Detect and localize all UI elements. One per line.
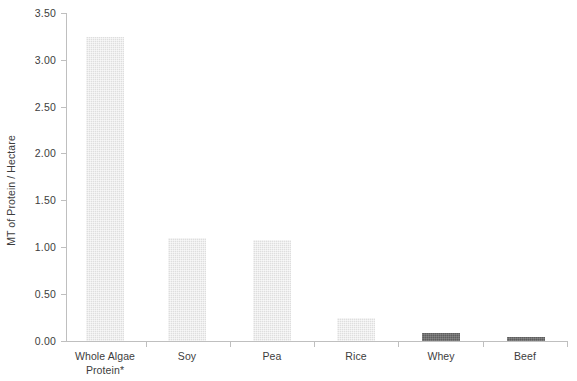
y-tick-label-1: 0.50: [0, 288, 56, 300]
y-tick-label-0: 0.00: [0, 335, 56, 347]
x-axis-line: [66, 341, 568, 342]
y-tick-label-6: 3.00: [0, 54, 56, 66]
x-category-label-beef: Beef: [483, 349, 567, 363]
y-tick-mark-5: [61, 107, 66, 108]
y-tick-label-3: 1.50: [0, 194, 56, 206]
y-tick-label-7: 3.50: [0, 7, 56, 19]
bar-chart: MT of Protein / Hectare 0.00 0.50 1.00 1…: [0, 0, 577, 381]
y-tick-mark-3: [61, 200, 66, 201]
bar-soy: [168, 238, 206, 341]
bar-whey: [422, 333, 460, 341]
x-tick-mark-5: [483, 342, 484, 347]
bar-beef: [507, 337, 545, 341]
y-tick-label-5: 2.50: [0, 101, 56, 113]
x-category-label-soy: Soy: [145, 349, 229, 363]
bar-whole-algae-protein: [86, 37, 124, 341]
y-tick-label-2: 1.00: [0, 241, 56, 253]
x-tick-mark-6: [567, 342, 568, 347]
bar-pea: [253, 240, 291, 341]
x-category-label-line2: Protein*: [63, 363, 147, 377]
y-tick-mark-4: [61, 153, 66, 154]
bar-rice: [337, 318, 375, 341]
x-category-label-whole-algae-protein: Whole Algae Protein*: [63, 349, 147, 377]
x-tick-mark-4: [398, 342, 399, 347]
x-category-label-whey: Whey: [399, 349, 483, 363]
x-category-label-rice: Rice: [314, 349, 398, 363]
x-tick-mark-1: [146, 342, 147, 347]
x-tick-mark-2: [230, 342, 231, 347]
x-tick-mark-3: [314, 342, 315, 347]
y-axis-line: [66, 13, 67, 342]
y-tick-mark-2: [61, 247, 66, 248]
x-category-label-pea: Pea: [230, 349, 314, 363]
x-category-label-line1: Whole Algae: [75, 350, 135, 362]
y-tick-mark-7: [61, 13, 66, 14]
y-tick-mark-0: [61, 341, 66, 342]
y-tick-label-4: 2.00: [0, 147, 56, 159]
y-tick-mark-6: [61, 60, 66, 61]
y-tick-mark-1: [61, 294, 66, 295]
